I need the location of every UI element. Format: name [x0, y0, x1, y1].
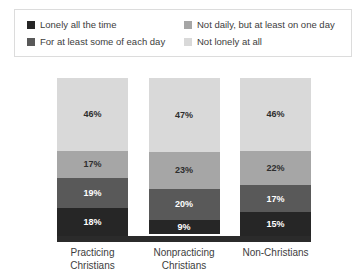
legend-item-label: For at least some of each day: [40, 36, 165, 47]
legend-swatch-icon: [184, 21, 192, 29]
bar-segment: 22%: [240, 151, 311, 186]
bar-segment-value-label: 17%: [83, 159, 101, 169]
bar-segment-value-label: 23%: [175, 165, 193, 175]
x-axis-category-label-line: Christians: [149, 259, 220, 272]
x-axis-category-label-line: Practicing: [57, 246, 128, 259]
bar-segment-value-label: 22%: [266, 163, 284, 173]
legend-item-label: Lonely all the time: [40, 19, 117, 30]
bar-segment-value-label: 18%: [83, 217, 101, 227]
bar-segment: 18%: [57, 208, 128, 236]
legend-item-for-at-least-some-of-each-day: For at least some of each day: [27, 36, 184, 47]
stacked-bars-container: 46%17%19%18%47%23%20%9%46%22%17%15%: [57, 78, 311, 236]
x-axis-category-label: PracticingChristians: [57, 246, 128, 272]
bar-segment: 46%: [57, 78, 128, 151]
legend-item-label: Not lonely at all: [197, 36, 262, 47]
bar-segment: 15%: [240, 212, 311, 236]
x-axis-category-label: Non-Christians: [240, 246, 311, 272]
x-axis-category-labels: PracticingChristiansNonpracticingChristi…: [57, 246, 311, 272]
legend-grid: Lonely all the time Not daily, but at le…: [27, 16, 347, 50]
x-axis-category-label-line: Christians: [57, 259, 128, 272]
x-axis-line: [57, 236, 311, 242]
x-axis-category-label-line: Nonpracticing: [149, 246, 220, 259]
legend-item-not-daily-but-at-least-on-one-day: Not daily, but at least on one day: [184, 19, 347, 30]
bar-segment: 46%: [240, 78, 311, 151]
chart-plot-area: 46%17%19%18%47%23%20%9%46%22%17%15% Prac…: [0, 62, 364, 274]
chart-legend: Lonely all the time Not daily, but at le…: [14, 9, 352, 57]
bar-segment-value-label: 19%: [83, 188, 101, 198]
legend-swatch-icon: [27, 38, 35, 46]
bar-segment-value-label: 15%: [266, 219, 284, 229]
bar-segment-value-label: 20%: [175, 199, 193, 209]
legend-item-lonely-all-the-time: Lonely all the time: [27, 19, 184, 30]
bar-segment: 9%: [149, 220, 220, 234]
bar-segment-value-label: 46%: [83, 109, 101, 119]
bar-segment-value-label: 46%: [266, 109, 284, 119]
bar-segment: 17%: [240, 185, 311, 212]
stacked-bar-2: 47%23%20%9%: [149, 78, 220, 236]
stacked-bar-3: 46%22%17%15%: [240, 78, 311, 236]
bar-segment: 19%: [57, 178, 128, 208]
bar-segment: 17%: [57, 151, 128, 178]
bar-segment: 23%: [149, 152, 220, 188]
bar-segment-value-label: 9%: [177, 222, 190, 232]
bar-segment: 20%: [149, 189, 220, 221]
x-axis-category-label-line: Non-Christians: [240, 246, 311, 259]
legend-item-not-lonely-at-all: Not lonely at all: [184, 36, 347, 47]
bar-segment-value-label: 47%: [175, 110, 193, 120]
legend-swatch-icon: [184, 38, 192, 46]
legend-item-label: Not daily, but at least on one day: [197, 19, 335, 30]
bar-segment-value-label: 17%: [266, 194, 284, 204]
stacked-bar-1: 46%17%19%18%: [57, 78, 128, 236]
legend-swatch-icon: [27, 21, 35, 29]
bar-segment: 47%: [149, 78, 220, 152]
x-axis-category-label: NonpracticingChristians: [149, 246, 220, 272]
